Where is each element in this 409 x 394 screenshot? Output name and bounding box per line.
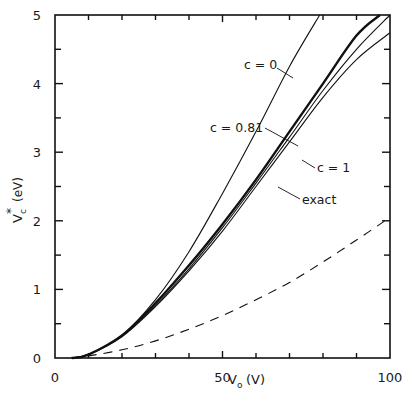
annotation-c0: c = 0: [244, 57, 293, 78]
svg-text:(eV): (eV): [11, 177, 25, 202]
y-axis-label: V c * (eV): [4, 177, 28, 223]
svg-text:V: V: [10, 214, 25, 223]
y-tick-label: 0: [33, 351, 41, 366]
curve-exact: [72, 15, 390, 358]
tick-labels: 050100012345: [33, 8, 403, 385]
y-tick-label: 2: [33, 214, 41, 229]
label-c-081: c = 0.81: [210, 120, 263, 135]
svg-text:o: o: [237, 380, 243, 390]
curve-c-0: [72, 15, 320, 358]
plot-frame: [55, 15, 390, 358]
svg-text:c: c: [18, 209, 28, 214]
y-tick-label: 4: [33, 77, 41, 92]
chart: 050100012345 c = 0 c = 0.81 c = 1 exact …: [0, 0, 409, 394]
svg-text:V: V: [228, 372, 237, 387]
annotation-c1: c = 1: [302, 160, 350, 175]
x-axis-label: V o (V): [228, 372, 265, 390]
annotation-exact: exact: [278, 187, 336, 207]
label-c-1: c = 1: [317, 160, 350, 175]
x-tick-label: 100: [378, 370, 403, 385]
svg-text:*: *: [4, 208, 18, 214]
curve-c-1: [72, 33, 390, 358]
label-c-0: c = 0: [244, 57, 277, 72]
svg-text:(V): (V): [246, 372, 265, 387]
annotation-c081: c = 0.81: [210, 120, 298, 146]
curves: [72, 15, 390, 358]
y-tick-label: 3: [33, 145, 41, 160]
y-tick-label: 5: [33, 8, 41, 23]
label-exact: exact: [302, 192, 336, 207]
y-tick-label: 1: [33, 282, 41, 297]
x-tick-label: 0: [51, 370, 59, 385]
axis-ticks: [55, 15, 390, 358]
